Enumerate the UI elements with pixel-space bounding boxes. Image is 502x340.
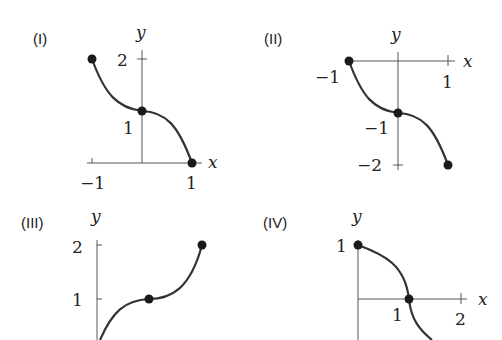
graph-4-title: (IV) bbox=[263, 214, 287, 231]
graph-3-y-tick-label: 2 bbox=[72, 237, 83, 257]
graph-4: (IV) y x 1 1 2 bbox=[263, 206, 488, 340]
graph-1-point bbox=[138, 107, 147, 116]
graph-4-point bbox=[405, 295, 414, 304]
graph-2-y-tick-label: −1 bbox=[364, 118, 389, 138]
graph-4-point bbox=[354, 241, 363, 250]
graph-2-x-label: x bbox=[463, 51, 473, 71]
graph-1: (I) y x −1 1 2 1 bbox=[33, 22, 218, 193]
graph-4-y-label: y bbox=[351, 206, 362, 226]
graph-1-y-tick-label: 2 bbox=[117, 50, 128, 70]
graph-1-y-tick-label: 1 bbox=[123, 118, 134, 138]
graph-3: (III) y 2 1 bbox=[21, 206, 207, 340]
graph-2-x-tick-label: 1 bbox=[442, 72, 453, 92]
graph-2-y-label: y bbox=[390, 24, 401, 44]
graph-1-y-label: y bbox=[135, 22, 146, 42]
graph-2-y-tick-label: −2 bbox=[357, 155, 382, 175]
graph-2: (II) y x −1 1 −1 −2 bbox=[264, 24, 473, 175]
graph-3-point bbox=[198, 241, 207, 250]
graph-4-curve bbox=[358, 245, 432, 340]
graph-1-x-tick-label: 1 bbox=[186, 173, 197, 193]
graph-4-x-tick-label: 2 bbox=[455, 309, 466, 329]
graph-2-title: (II) bbox=[264, 30, 282, 47]
graph-3-y-tick-label: 1 bbox=[72, 290, 83, 310]
graph-1-x-label: x bbox=[208, 152, 218, 172]
graph-1-x-tick-label: −1 bbox=[80, 173, 105, 193]
graph-2-point bbox=[444, 161, 453, 170]
graph-3-y-label: y bbox=[90, 206, 101, 226]
graph-2-x-tick-label: −1 bbox=[315, 67, 340, 87]
graph-2-point bbox=[345, 57, 354, 66]
graph-4-y-tick-label: 1 bbox=[336, 236, 347, 256]
graph-3-title: (III) bbox=[21, 214, 44, 231]
graph-2-point bbox=[394, 109, 403, 118]
graph-4-x-label: x bbox=[478, 289, 488, 309]
graph-3-curve bbox=[100, 245, 202, 340]
graph-4-x-tick-label: 1 bbox=[392, 305, 403, 325]
graph-1-point bbox=[88, 55, 97, 64]
graph-1-point bbox=[188, 159, 197, 168]
graph-1-title: (I) bbox=[33, 30, 47, 47]
graphs-canvas: (I) y x −1 1 2 1 (II) y x −1 1 −1 −2 (II… bbox=[0, 0, 502, 340]
graph-3-point bbox=[145, 295, 154, 304]
